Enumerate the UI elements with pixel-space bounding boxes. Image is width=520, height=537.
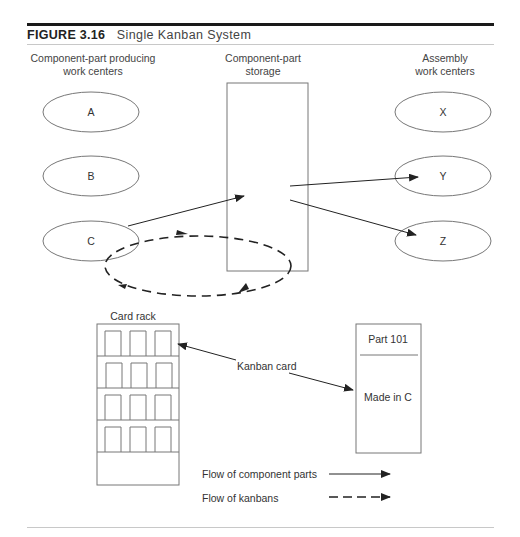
kanban-card-made-in: Made in C (364, 391, 412, 403)
kanban-card: Part 101 Made in C (356, 324, 421, 453)
arrow-storage-to-y (290, 177, 418, 186)
card-rack (97, 324, 179, 485)
arrow-to-kanban-card (289, 373, 353, 390)
kanban-diagram: A B C X Y Z Card rack (0, 0, 520, 537)
svg-text:X: X (439, 106, 446, 118)
work-center-b: B (43, 156, 139, 196)
kanban-flow-loop (105, 230, 291, 296)
svg-text:Y: Y (439, 170, 446, 182)
work-center-y: Y (395, 156, 491, 196)
svg-text:A: A (87, 106, 94, 118)
work-center-a: A (43, 92, 139, 132)
svg-text:C: C (87, 235, 95, 247)
svg-text:Z: Z (440, 235, 447, 247)
loop-arrowhead-top (176, 230, 188, 235)
legend-parts-label: Flow of component parts (202, 468, 317, 480)
work-center-c: C (43, 221, 139, 261)
arrow-storage-to-z (290, 200, 416, 235)
arrow-to-card-rack (178, 344, 236, 360)
loop-arrowhead-left (118, 284, 127, 289)
component-storage-box (227, 83, 308, 271)
card-rack-label: Card rack (110, 310, 156, 322)
svg-text:B: B (87, 170, 94, 182)
work-center-x: X (395, 92, 491, 132)
kanban-card-label: Kanban card (237, 360, 297, 372)
legend-kanban-label: Flow of kanbans (202, 492, 278, 504)
figure-bottom-rule (27, 527, 494, 528)
kanban-card-part: Part 101 (368, 333, 408, 345)
work-center-z: Z (395, 221, 491, 261)
